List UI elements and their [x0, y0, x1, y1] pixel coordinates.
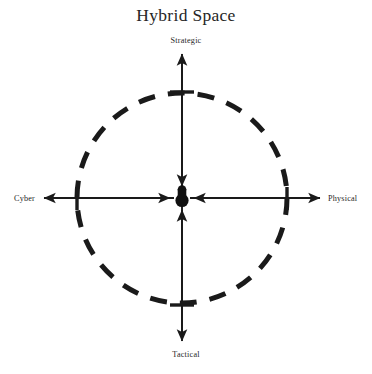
axis-label-physical: Physical: [328, 194, 357, 203]
axis-label-tactical: Tactical: [0, 350, 372, 359]
axis-label-cyber: Cyber: [14, 194, 35, 203]
hybrid-space-figure: Hybrid Space: [0, 0, 372, 374]
center-actor-marker: [175, 185, 188, 207]
axis-label-strategic: Strategic: [0, 36, 372, 45]
hybrid-space-plot: [0, 0, 372, 374]
